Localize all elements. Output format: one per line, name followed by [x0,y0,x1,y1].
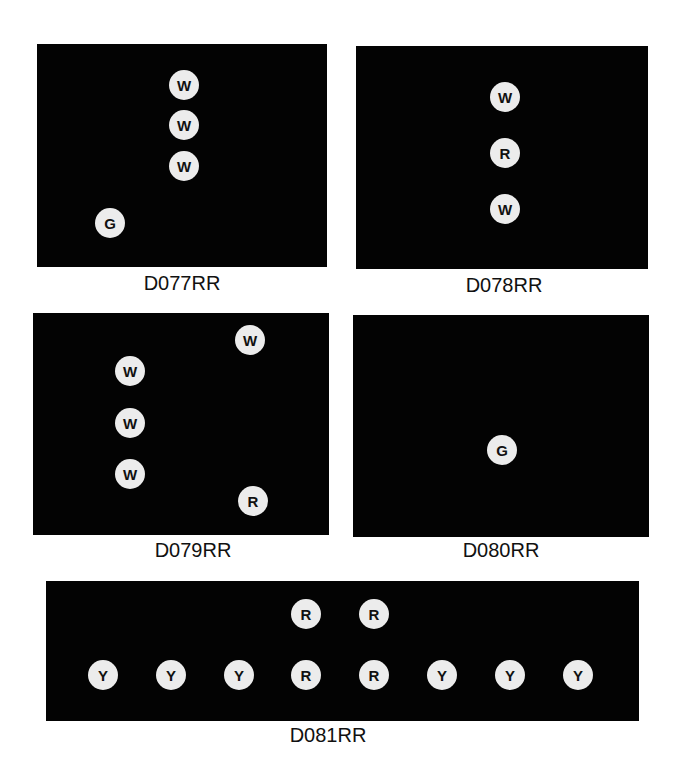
marker-r: R [359,660,389,690]
diagram-label: D078RR [466,274,543,297]
diagram-panel-d078rr: WRW [356,46,648,269]
marker-w: W [169,70,199,100]
marker-w: W [490,194,520,224]
diagram-label: D080RR [463,539,540,562]
diagram-panel-d080rr: G [353,315,649,537]
marker-w: W [115,356,145,386]
marker-y: Y [495,660,525,690]
diagram-label: D079RR [155,539,232,562]
marker-r: R [291,660,321,690]
diagram-panel-d081rr: RRYYYRRYYY [46,581,639,721]
marker-w: W [169,110,199,140]
marker-g: G [95,208,125,238]
marker-y: Y [427,660,457,690]
marker-r: R [359,599,389,629]
diagram-label: D081RR [290,724,367,747]
diagram-panel-d077rr: WWWG [37,44,327,267]
marker-r: R [291,599,321,629]
diagram-panel-d079rr: WWWWR [33,313,329,535]
marker-w: W [169,151,199,181]
marker-w: W [235,325,265,355]
marker-y: Y [563,660,593,690]
marker-w: W [115,408,145,438]
marker-y: Y [156,660,186,690]
marker-y: Y [88,660,118,690]
marker-y: Y [224,660,254,690]
marker-w: W [115,459,145,489]
marker-r: R [490,138,520,168]
diagram-label: D077RR [144,272,221,295]
marker-w: W [490,82,520,112]
marker-r: R [238,486,268,516]
marker-g: G [487,435,517,465]
